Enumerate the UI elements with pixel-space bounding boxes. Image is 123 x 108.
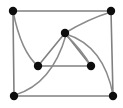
graph-edge-top-right-to-bottom-right	[111, 11, 113, 96]
graph-edge-top-left-to-bottom-left	[13, 11, 14, 96]
graph-node-center	[61, 29, 69, 37]
graph-node-top-right	[107, 7, 115, 15]
graph-canvas	[0, 0, 123, 108]
graph-edge-center-to-top-right	[65, 12, 111, 33]
graph-node-left-middle	[34, 62, 42, 70]
graph-figure	[0, 0, 123, 108]
edge-layer	[13, 11, 113, 96]
node-layer	[9, 7, 117, 100]
graph-node-bottom-right	[109, 92, 117, 100]
graph-node-bottom-left	[10, 92, 18, 100]
graph-node-right-middle	[87, 62, 95, 70]
graph-edge-top-left-to-left-middle	[13, 11, 38, 66]
graph-node-top-left	[9, 7, 17, 15]
